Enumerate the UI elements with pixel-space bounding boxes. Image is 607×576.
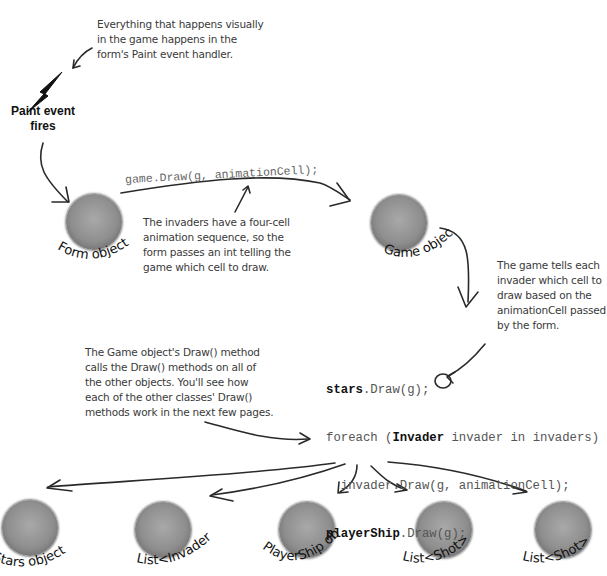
game-object-label: Game object: [0, 0, 455, 260]
code-line-2: foreach (Invader invader in invaders): [326, 430, 599, 446]
code-line-1: stars.Draw(g);: [326, 382, 599, 398]
code-line-4: playerShip.Draw(g);: [326, 526, 599, 542]
form-object-label: Form object: [56, 235, 131, 262]
game-draw-code: stars.Draw(g); foreach (Invader invader …: [326, 350, 599, 576]
playership-object-label: PlayerShip object: [0, 0, 342, 563]
code-line-3: invader.Draw(g, animationCell);: [326, 478, 599, 494]
stars-object-label: Stars object: [0, 542, 68, 569]
list-invader-label: List<Invader>: [0, 0, 214, 567]
